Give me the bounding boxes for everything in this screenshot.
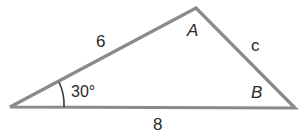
triangle-figure [0, 0, 300, 138]
side-label-6: 6 [96, 33, 105, 50]
angle-arc [59, 82, 64, 107]
vertex-label-a: A [187, 22, 198, 39]
side-label-c: c [251, 37, 260, 54]
side-label-8: 8 [153, 116, 162, 133]
vertex-label-b: B [251, 84, 262, 101]
angle-label-30: 30° [71, 84, 95, 100]
